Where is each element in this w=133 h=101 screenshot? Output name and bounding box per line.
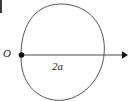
cardioid-figure: O 2a — [0, 0, 133, 101]
axis-length-label: 2a — [52, 61, 63, 72]
origin-label: O — [3, 48, 11, 59]
arrow-right-icon — [122, 51, 128, 59]
figure-canvas — [0, 0, 133, 101]
cardioid-curve — [21, 4, 104, 100]
origin-dot-icon — [19, 52, 25, 58]
